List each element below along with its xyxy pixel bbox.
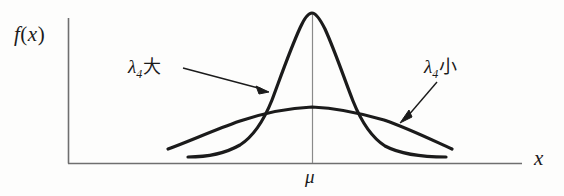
annotation-label-lambda4-large: λ4大 bbox=[128, 57, 161, 80]
y-axis-label-variable: x bbox=[28, 22, 38, 46]
annotation-word-small: 小 bbox=[438, 56, 457, 77]
curve-lambda4-large bbox=[188, 13, 446, 157]
y-axis-label-close-paren: ) bbox=[38, 22, 46, 46]
annotation-label-lambda4-small: λ4小 bbox=[424, 57, 457, 80]
x-axis-label: x bbox=[534, 148, 543, 169]
annotation-word-large: 大 bbox=[142, 56, 161, 77]
figure-container: f(x) x μ λ4大 λ4小 bbox=[0, 0, 564, 196]
lambda-symbol-left: λ bbox=[128, 56, 136, 77]
annotation-arrow-lambda4-small bbox=[400, 82, 437, 123]
annotation-arrow-lambda4-large bbox=[183, 68, 269, 94]
y-axis-label: f(x) bbox=[14, 24, 45, 45]
x-axis-tick-label-mu: μ bbox=[305, 167, 315, 186]
arrowhead-right bbox=[400, 110, 412, 123]
lambda-symbol-right: λ bbox=[424, 56, 432, 77]
y-axis-label-open-paren: ( bbox=[20, 22, 28, 46]
arrowhead-left bbox=[256, 86, 269, 94]
plot-canvas bbox=[0, 0, 564, 196]
